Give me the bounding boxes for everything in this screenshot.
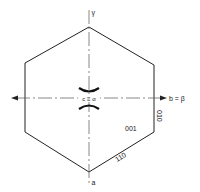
b-beta-label: b = β xyxy=(169,95,185,103)
a-axis-label: a xyxy=(92,179,96,186)
face-110-label: 110 xyxy=(114,151,127,163)
gamma-label: γ xyxy=(92,9,96,17)
c-alpha-label: c ≡ α xyxy=(82,96,96,102)
left-arrow-icon xyxy=(11,96,18,101)
face-001-label: 001 xyxy=(125,125,137,132)
right-arrow-icon xyxy=(160,96,167,101)
crystal-diagram: γ a b = β c ≡ α 001 010 110 xyxy=(0,0,200,192)
face-010-label: 010 xyxy=(156,110,163,122)
